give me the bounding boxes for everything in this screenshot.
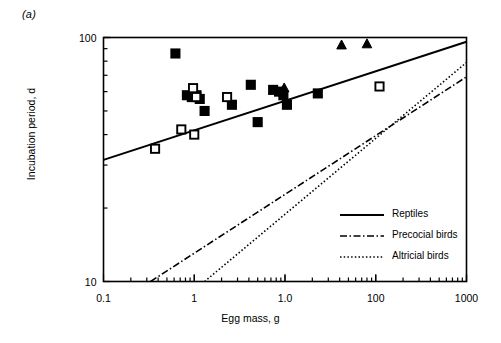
data-point-filled-square bbox=[200, 107, 208, 115]
axis-frame bbox=[104, 38, 467, 282]
x-tick-label: 100 bbox=[367, 292, 385, 304]
x-tick-label: 1.0 bbox=[278, 292, 293, 304]
data-point-filled-square bbox=[314, 89, 322, 97]
data-point-filled-square bbox=[254, 118, 262, 126]
data-markers-group bbox=[151, 39, 384, 153]
data-point-filled-triangle bbox=[337, 40, 347, 49]
data-point-open-square bbox=[189, 84, 197, 92]
data-point-open-square bbox=[192, 93, 200, 101]
figure-panel: (a) Incubation period, d Egg mass, g 100… bbox=[0, 0, 501, 343]
x-tick-label: 1000 bbox=[455, 292, 478, 304]
y-tick-label: 100 bbox=[79, 32, 97, 44]
data-point-open-square bbox=[190, 130, 198, 138]
data-point-open-square bbox=[223, 93, 231, 101]
legend-item-label: Reptiles bbox=[392, 208, 428, 219]
x-tick-label: 0.1 bbox=[96, 292, 111, 304]
data-point-filled-square bbox=[283, 101, 291, 109]
panel-label: (a) bbox=[22, 8, 36, 20]
legend-item-label: Precocial birds bbox=[392, 229, 458, 240]
y-tick-label: 10 bbox=[85, 276, 97, 288]
data-point-filled-square bbox=[171, 49, 179, 57]
trend-line-dotted bbox=[205, 62, 467, 281]
axis-tick-marks bbox=[104, 38, 467, 282]
data-point-open-square bbox=[375, 82, 383, 90]
data-point-filled-square bbox=[247, 81, 255, 89]
data-point-filled-triangle bbox=[362, 39, 372, 48]
trend-lines-group bbox=[104, 42, 467, 282]
data-point-open-square bbox=[151, 145, 159, 153]
legend-line-samples bbox=[340, 215, 384, 257]
legend-item-label: Altricial birds bbox=[392, 250, 449, 261]
scatter-plot-canvas bbox=[0, 0, 501, 343]
x-axis-label: Egg mass, g bbox=[0, 312, 501, 324]
x-tick-label: 1 bbox=[191, 292, 197, 304]
y-axis-label: Incubation period, d bbox=[25, 54, 37, 214]
data-point-open-square bbox=[177, 125, 185, 133]
